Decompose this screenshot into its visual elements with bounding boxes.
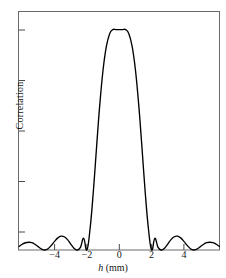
x-axis-label: h (mm) [0,262,226,273]
correlation-plot [0,0,226,278]
x-tick-label: 2 [139,249,165,260]
x-tick-label: −4 [42,249,68,260]
plot-frame [19,12,220,251]
x-tick-label: −2 [74,249,100,260]
x-tick-label: 4 [171,249,197,260]
x-axis-label-units: (mm) [103,262,128,273]
x-tick-label: 0 [106,249,132,260]
y-axis-label: Correlation [14,61,25,151]
figure-container: Correlation h (mm) −4−2024 [0,0,226,278]
